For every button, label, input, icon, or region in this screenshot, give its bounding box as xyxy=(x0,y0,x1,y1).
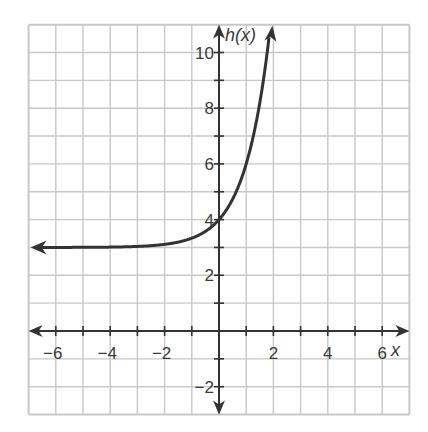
function-curve xyxy=(34,37,269,247)
x-axis-label: x xyxy=(390,340,401,360)
x-tick-label: 6 xyxy=(377,344,386,363)
y-tick-label: 8 xyxy=(205,99,214,118)
y-tick-label: 2 xyxy=(205,266,214,285)
y-axis-label: h(x) xyxy=(225,25,256,45)
x-tick-label: −4 xyxy=(98,344,117,363)
exponential-graph: −6−4−2246−2246810 x h(x) xyxy=(0,0,428,432)
y-tick-label: −2 xyxy=(195,378,214,397)
x-tick-label: −2 xyxy=(152,344,171,363)
x-tick-label: 4 xyxy=(323,344,332,363)
x-tick-label: −6 xyxy=(43,344,62,363)
x-tick-label: 2 xyxy=(269,344,278,363)
curve-up-arrow-icon xyxy=(264,26,276,42)
y-tick-label: 10 xyxy=(195,44,214,63)
y-tick-label: 6 xyxy=(205,155,214,174)
